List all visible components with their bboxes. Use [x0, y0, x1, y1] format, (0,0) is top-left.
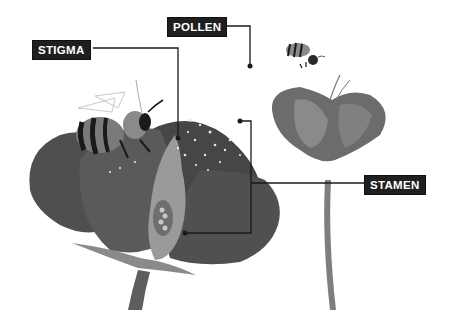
- stigma-label: STIGMA: [32, 40, 91, 60]
- stamen-label: STAMEN: [364, 175, 426, 195]
- flying-bee: [286, 43, 325, 68]
- stamen-pointer-dot-top: [238, 119, 243, 124]
- pollen-pointer-dot: [248, 64, 253, 69]
- stigma-pointer-dot: [176, 136, 181, 141]
- large-flower-cross-section: [29, 119, 279, 311]
- pollen-label: POLLEN: [167, 17, 227, 37]
- pollen-leader-line: [227, 26, 250, 66]
- stamen-pointer-dot-bottom: [183, 231, 188, 236]
